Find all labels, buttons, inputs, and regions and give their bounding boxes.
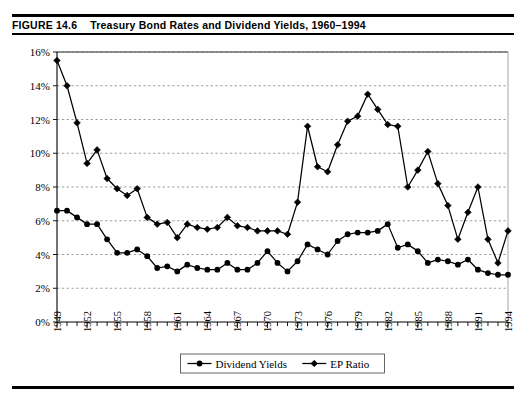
data-point-marker	[64, 82, 71, 89]
data-point-marker	[174, 268, 180, 274]
data-point-marker	[254, 228, 261, 235]
data-point-marker	[355, 230, 361, 236]
data-point-marker	[204, 267, 210, 273]
data-point-marker	[235, 267, 241, 273]
x-axis-tick-label: 1955	[112, 311, 123, 332]
x-axis-tick-label: 1988	[443, 311, 454, 332]
data-point-marker	[134, 185, 141, 192]
data-point-marker	[184, 262, 190, 268]
data-point-marker	[374, 106, 381, 113]
y-gridlines: 0%2%4%6%8%10%12%14%16%	[30, 46, 508, 328]
y-axis-tick-label: 2%	[35, 282, 50, 294]
data-point-marker	[144, 253, 150, 259]
data-point-marker	[465, 209, 472, 216]
data-point-marker	[94, 221, 100, 227]
data-point-marker	[415, 167, 422, 174]
data-point-marker	[435, 257, 441, 263]
data-point-marker	[425, 148, 432, 155]
data-point-marker	[505, 228, 512, 235]
data-point-marker	[74, 214, 80, 220]
data-point-marker	[385, 221, 391, 227]
y-axis-tick-label: 12%	[30, 114, 50, 126]
data-point-marker	[265, 248, 271, 254]
x-axis-ticks: 1949195219551958196119641967197019731976…	[52, 310, 514, 332]
figure-number: FIGURE 14.6	[12, 19, 77, 31]
data-point-marker	[334, 142, 341, 149]
data-point-marker	[455, 236, 462, 243]
data-point-marker	[354, 113, 361, 120]
bottom-rule	[12, 386, 514, 389]
data-point-marker	[255, 260, 261, 266]
figure-caption: FIGURE 14.6 Treasury Bond Rates and Divi…	[12, 17, 366, 33]
data-point-marker	[425, 260, 431, 266]
data-point-marker	[465, 257, 471, 263]
data-point-marker	[455, 262, 461, 268]
data-point-marker	[415, 248, 421, 254]
data-point-marker	[264, 228, 271, 235]
chart-area: 0%2%4%6%8%10%12%14%16%194919521955195819…	[0, 35, 526, 385]
data-point-marker	[154, 265, 160, 271]
data-point-marker	[364, 91, 371, 98]
data-point-marker	[194, 265, 200, 271]
data-point-marker	[84, 221, 90, 227]
data-point-marker	[64, 208, 70, 214]
data-point-marker	[405, 241, 411, 247]
data-point-marker	[124, 192, 131, 199]
y-axis-tick-label: 14%	[30, 80, 50, 92]
data-point-marker	[315, 247, 321, 253]
x-axis-tick-label: 1985	[413, 311, 424, 332]
data-point-marker	[245, 267, 251, 273]
x-axis-tick-label: 1991	[473, 311, 484, 332]
x-axis-tick-label: 1970	[262, 311, 273, 332]
data-point-marker	[435, 180, 442, 187]
y-axis-tick-label: 4%	[35, 249, 50, 261]
y-axis-tick-label: 6%	[35, 215, 50, 227]
legend-label: Dividend Yields	[216, 358, 287, 370]
data-point-marker	[164, 219, 171, 226]
data-point-marker	[54, 208, 60, 214]
y-axis-tick-label: 10%	[30, 147, 50, 159]
data-point-marker	[505, 272, 511, 278]
data-point-marker	[395, 245, 401, 251]
data-point-marker	[375, 228, 381, 234]
data-point-marker	[485, 236, 492, 243]
data-point-marker	[495, 272, 501, 278]
x-axis-tick-label: 1982	[383, 311, 394, 332]
line-chart: 0%2%4%6%8%10%12%14%16%194919521955195819…	[0, 35, 526, 385]
data-point-marker	[475, 267, 481, 273]
x-axis-tick-label: 1994	[503, 310, 514, 332]
x-axis-tick-label: 1976	[323, 311, 334, 332]
x-axis-tick-label: 1952	[82, 311, 93, 332]
data-point-marker	[304, 123, 311, 130]
x-axis-tick-label: 1958	[142, 311, 153, 332]
data-point-marker	[144, 214, 151, 221]
data-point-marker	[495, 260, 502, 267]
y-axis-tick-label: 16%	[30, 46, 50, 58]
y-axis-tick-label: 0%	[35, 316, 50, 328]
data-point-marker	[324, 169, 331, 176]
series-dividend-yields	[54, 208, 511, 278]
data-point-marker	[164, 263, 170, 269]
data-point-marker	[285, 268, 291, 274]
data-point-marker	[274, 228, 281, 235]
x-axis-tick-label: 1949	[52, 311, 63, 332]
data-point-marker	[204, 226, 211, 233]
data-point-marker	[445, 258, 451, 264]
y-axis-tick-label: 8%	[35, 181, 50, 193]
chart-legend: Dividend YieldsEP Ratio	[181, 354, 385, 373]
data-point-marker	[384, 121, 391, 128]
data-point-marker	[54, 57, 61, 64]
data-point-marker	[134, 247, 140, 253]
data-point-marker	[114, 250, 120, 256]
data-point-marker	[485, 270, 491, 276]
data-point-marker	[154, 221, 161, 228]
data-point-marker	[325, 252, 331, 258]
data-point-marker	[394, 123, 401, 130]
data-point-marker	[197, 361, 203, 367]
data-point-marker	[344, 118, 351, 125]
data-point-marker	[284, 231, 291, 238]
data-point-marker	[74, 120, 81, 127]
x-axis-tick-label: 1979	[353, 311, 364, 332]
x-axis-tick-label: 1961	[172, 311, 183, 332]
series-line	[57, 60, 508, 263]
